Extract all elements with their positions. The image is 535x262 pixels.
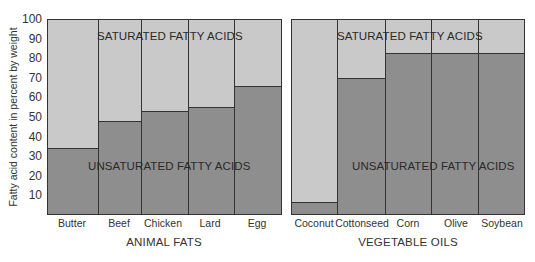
bar-divider: [141, 20, 142, 214]
label-text: UNSATURATED FATTY ACIDS: [351, 160, 515, 172]
animal-fats-plot: [47, 19, 282, 215]
bar-divider: [431, 20, 432, 214]
y-tick-10: 10: [20, 188, 42, 202]
bar-divider: [385, 20, 386, 214]
animal-unsaturated-label: UNSATURATED FATTY ACIDS: [87, 160, 251, 172]
bar-unsaturated-butter: [48, 148, 98, 214]
category-egg: Egg: [248, 217, 267, 229]
y-tick-80: 80: [20, 51, 42, 65]
category-chicken: Chicken: [144, 217, 182, 229]
category-corn: Corn: [397, 217, 420, 229]
y-tick-50: 50: [20, 110, 42, 124]
y-tick-60: 60: [20, 90, 42, 104]
bar-divider: [234, 20, 235, 214]
y-axis-label: Fatty acid content in percent by weight: [7, 27, 19, 206]
bar-unsaturated-cottonseed: [337, 78, 385, 214]
bar-unsaturated-olive: [431, 53, 478, 214]
category-coconut: Coconut: [294, 217, 333, 229]
y-tick-70: 70: [20, 71, 42, 85]
bar-divider: [188, 20, 189, 214]
animal-saturated-label: SATURATED FATTY ACIDS: [96, 30, 244, 42]
bar-divider: [337, 20, 338, 214]
label-text: SATURATED FATTY ACIDS: [336, 30, 484, 42]
category-beef: Beef: [108, 217, 130, 229]
y-tick-30: 30: [20, 149, 42, 163]
bar-unsaturated-soybean: [478, 53, 524, 214]
bar-divider: [478, 20, 479, 214]
y-tick-100: 100: [17, 12, 42, 26]
y-tick-90: 90: [20, 32, 42, 46]
label-text: UNSATURATED FATTY ACIDS: [87, 160, 251, 172]
bar-unsaturated-corn: [385, 53, 431, 214]
vegetable-saturated-label: SATURATED FATTY ACIDS: [336, 30, 484, 42]
category-cottonseed: Cottonseed: [335, 217, 389, 229]
category-olive: Olive: [444, 217, 468, 229]
bar-divider: [98, 20, 99, 214]
y-tick-20: 20: [20, 169, 42, 183]
category-butter: Butter: [58, 217, 86, 229]
label-text: SATURATED FATTY ACIDS: [96, 30, 244, 42]
group-label-animal-fats: ANIMAL FATS: [126, 236, 202, 248]
bar-unsaturated-egg: [234, 86, 281, 214]
bar-unsaturated-coconut: [292, 202, 337, 214]
vegetable-oils-plot: [291, 19, 525, 215]
y-tick-40: 40: [20, 130, 42, 144]
category-lard: Lard: [199, 217, 220, 229]
group-label-vegetable-oils: VEGETABLE OILS: [358, 236, 458, 248]
category-soybean: Soybean: [481, 217, 522, 229]
vegetable-unsaturated-label: UNSATURATED FATTY ACIDS: [351, 160, 515, 172]
